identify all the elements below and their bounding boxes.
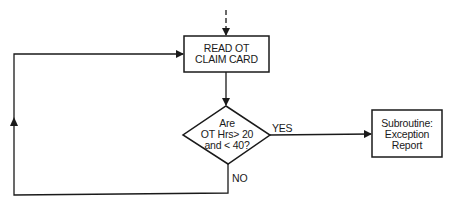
- decision-line-3: and < 40?: [193, 140, 261, 151]
- subroutine-label: Subroutine: Exception Report: [372, 118, 442, 151]
- subroutine-line-3: Report: [372, 140, 442, 151]
- yes-arrow: [270, 134, 371, 135]
- no-edge-label: NO: [232, 173, 247, 184]
- yes-edge-label: YES: [272, 123, 292, 134]
- read-box-label: READ OT CLAIM CARD: [184, 43, 269, 65]
- flowchart-canvas: [0, 0, 455, 206]
- read-box-line-2: CLAIM CARD: [184, 54, 269, 65]
- decision-label: Are OT Hrs> 20 and < 40?: [193, 118, 261, 151]
- loop-up-arrowhead-icon: [10, 117, 18, 126]
